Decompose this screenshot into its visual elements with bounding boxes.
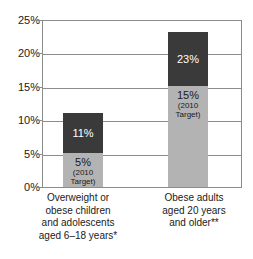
bar-overweight-obese-children: 11% 5% (2010 Target) [63,113,103,187]
category-label-1-line3: and adolescents [22,217,134,230]
bar-value-label-current-1: 11% [72,127,93,139]
y-axis-tick-label-15: 15% [2,82,40,93]
bar-segment-current-2: 23% [168,32,208,86]
category-label-2-line1: Obese adults [140,192,248,205]
bar-target-note-line2-1: Target) [71,177,96,186]
category-label-2-line2: aged 20 years [140,205,248,218]
y-axis-tick-label-10: 10% [2,115,40,126]
bar-value-label-current-2: 23% [177,53,199,65]
category-label-1-line1: Overweight or [22,192,134,205]
category-label-2-line3: and older** [140,217,248,230]
y-axis-tick-label-5: 5% [2,149,40,160]
bar-target-note-line1-2: (2010 [178,101,198,110]
bar-target-note-line1-1: (2010 [73,168,93,177]
bar-target-note-line2-2: Target) [176,110,201,119]
bar-segment-current-1: 11% [63,113,103,153]
plot-area: 11% 5% (2010 Target) 23% 15% (2010 Targe… [42,20,242,188]
gridline-15 [43,88,241,89]
category-label-1-line4: aged 6–18 years* [22,230,134,243]
bar-segment-target-2: 15% (2010 Target) [168,86,208,187]
bar-value-label-target-2: 15% [177,89,199,101]
bar-value-label-target-1: 5% [75,156,91,168]
bar-obese-adults: 23% 15% (2010 Target) [168,32,208,187]
y-axis-tick-label-25: 25% [2,15,40,26]
category-label-1-line2: obese children [22,205,134,218]
chart-figure: 25% 20% 15% 10% 5% 0% 11% 5% (2010 Targe… [0,0,253,259]
bar-segment-target-1: 5% (2010 Target) [63,153,103,187]
y-axis-tick-label-20: 20% [2,48,40,59]
x-axis-category-label-2: Obese adults aged 20 years and older** [140,192,248,230]
gridline-20 [43,54,241,55]
x-axis-category-label-1: Overweight or obese children and adolesc… [22,192,134,242]
